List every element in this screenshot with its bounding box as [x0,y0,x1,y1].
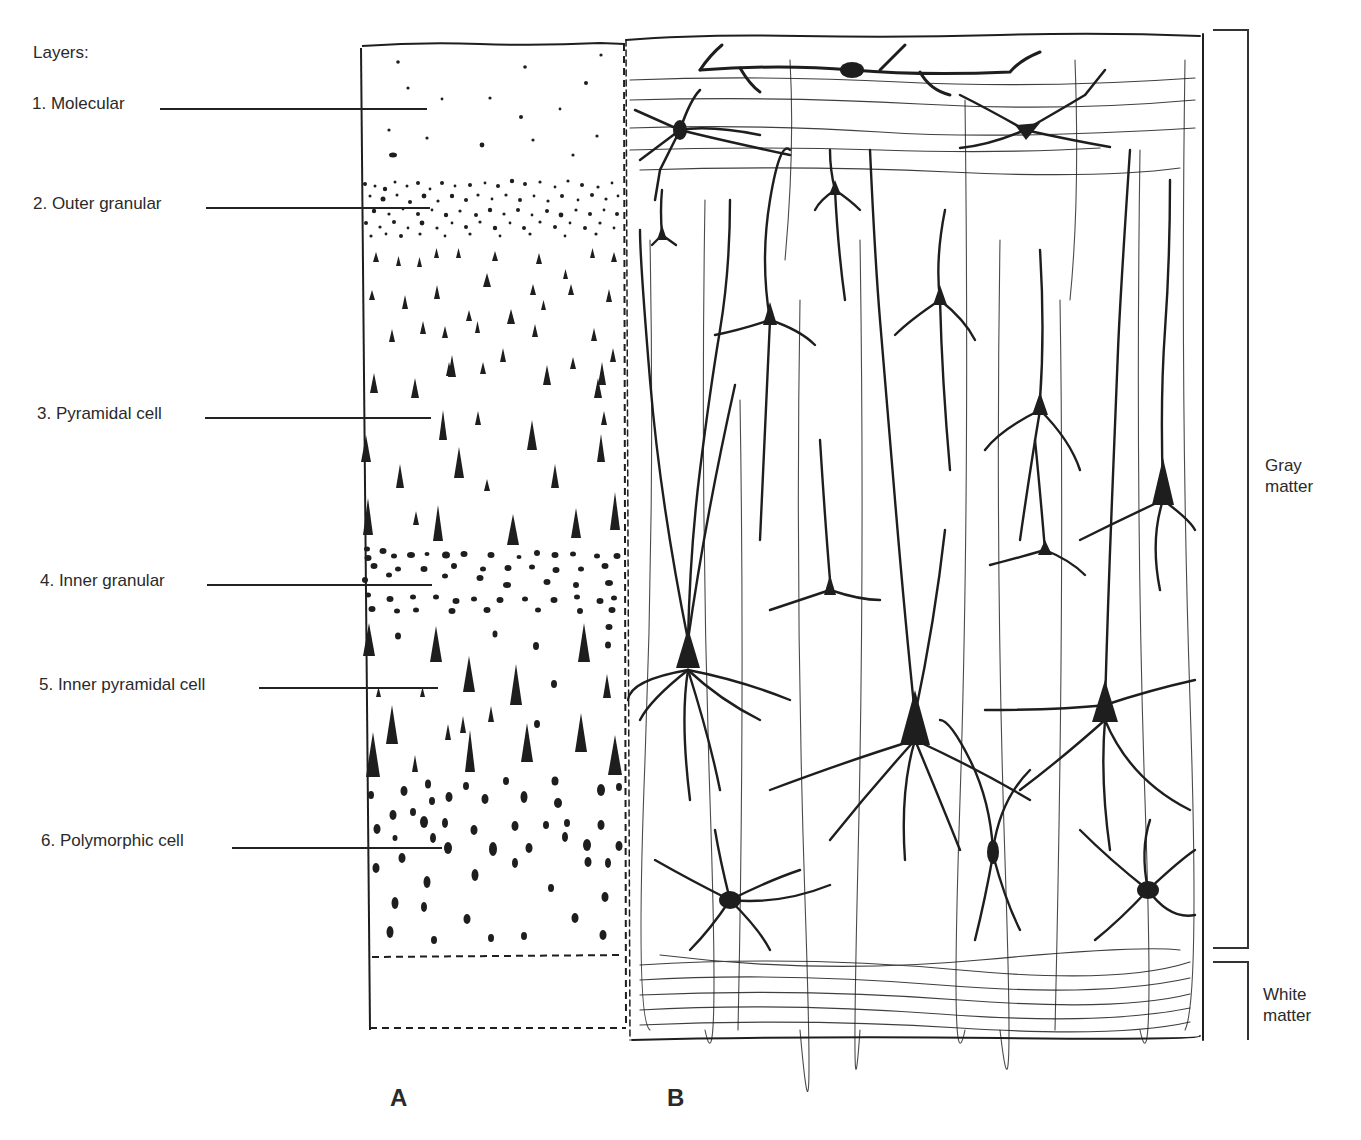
gray-matter-bracket [1213,30,1248,948]
leader-line-polymorphic-cell [232,847,442,849]
leader-line-inner-granular [207,584,432,586]
panel-b-neuron-drawing [626,34,1203,1092]
layer-label-polymorphic-cell: 6. Polymorphic cell [41,831,184,851]
white-matter-label-line1: White [1263,984,1311,1005]
gray-matter-label: Gray matter [1265,455,1313,497]
layer-label-pyramidal-cell: 3. Pyramidal cell [37,404,162,424]
layer-label-molecular: 1. Molecular [32,94,125,114]
white-matter-label: White matter [1263,984,1311,1026]
gray-matter-label-line1: Gray [1265,455,1313,476]
panel-label-b: B [667,1084,684,1112]
cortex-illustration [0,0,1361,1140]
gray-matter-label-line2: matter [1265,476,1313,497]
white-matter-bracket [1213,962,1248,1040]
layer-label-outer-granular: 2. Outer granular [33,194,162,214]
panel-label-a: A [390,1084,407,1112]
layer-label-inner-granular: 4. Inner granular [40,571,165,591]
layers-heading: Layers: [33,43,89,63]
leader-line-pyramidal-cell [205,417,431,419]
layer-label-inner-pyramidal-cell: 5. Inner pyramidal cell [39,675,205,695]
leader-line-molecular [160,108,427,110]
leader-line-outer-granular [206,207,430,209]
white-matter-label-line2: matter [1263,1005,1311,1026]
leader-line-inner-pyramidal-cell [259,687,438,689]
panel-a-cell-density-drawing [361,43,626,1030]
region-brackets [1213,30,1248,1040]
